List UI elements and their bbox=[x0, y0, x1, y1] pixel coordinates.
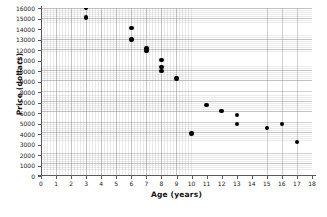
data-point bbox=[235, 113, 239, 117]
y-tick-label: 16000 bbox=[1, 5, 35, 12]
x-tick bbox=[116, 176, 117, 179]
x-tick-label: 10 bbox=[184, 180, 200, 187]
data-point bbox=[235, 122, 239, 126]
x-tick bbox=[56, 176, 57, 179]
x-tick bbox=[146, 176, 147, 179]
x-tick-label: 14 bbox=[244, 180, 260, 187]
data-point bbox=[129, 37, 133, 41]
y-tick-label: 1000 bbox=[1, 162, 35, 169]
y-tick bbox=[38, 82, 41, 83]
x-tick bbox=[86, 176, 87, 179]
x-tick-label: 4 bbox=[93, 180, 109, 187]
data-point bbox=[159, 58, 163, 62]
x-tick-label: 5 bbox=[108, 180, 124, 187]
x-tick bbox=[41, 176, 42, 179]
data-point bbox=[84, 8, 88, 10]
x-tick bbox=[252, 176, 253, 179]
x-tick-label: 6 bbox=[123, 180, 139, 187]
x-tick-label: 9 bbox=[169, 180, 185, 187]
x-tick-label: 13 bbox=[229, 180, 245, 187]
x-tick bbox=[222, 176, 223, 179]
y-tick-label: 2000 bbox=[1, 152, 35, 159]
x-tick bbox=[297, 176, 298, 179]
y-tick bbox=[38, 50, 41, 51]
data-point bbox=[204, 103, 208, 107]
x-tick-label: 3 bbox=[78, 180, 94, 187]
x-tick-label: 11 bbox=[199, 180, 215, 187]
x-tick bbox=[101, 176, 102, 179]
x-tick-label: 0 bbox=[33, 180, 49, 187]
major-gridlines bbox=[41, 8, 312, 176]
data-point bbox=[129, 26, 133, 30]
y-axis-title: Price (dollars) bbox=[15, 29, 24, 139]
data-point bbox=[280, 122, 284, 126]
y-tick bbox=[38, 124, 41, 125]
y-tick bbox=[38, 113, 41, 114]
y-tick bbox=[38, 8, 41, 9]
data-point bbox=[265, 126, 269, 130]
scatter-chart: 0123456789101112131415161718 01000200030… bbox=[0, 0, 327, 217]
data-point bbox=[159, 69, 163, 73]
data-point bbox=[174, 76, 178, 80]
minor-gridlines bbox=[41, 8, 312, 176]
x-tick bbox=[161, 176, 162, 179]
x-tick-label: 1 bbox=[48, 180, 64, 187]
x-tick bbox=[282, 176, 283, 179]
plot-area bbox=[41, 8, 312, 176]
data-point bbox=[295, 140, 299, 144]
y-tick-label: 15000 bbox=[1, 15, 35, 22]
y-tick bbox=[38, 40, 41, 41]
data-point bbox=[189, 131, 193, 135]
x-tick bbox=[177, 176, 178, 179]
y-tick bbox=[38, 103, 41, 104]
x-tick-label: 18 bbox=[304, 180, 320, 187]
y-tick bbox=[38, 19, 41, 20]
y-tick bbox=[38, 92, 41, 93]
x-tick-label: 16 bbox=[274, 180, 290, 187]
x-tick-label: 15 bbox=[259, 180, 275, 187]
y-tick bbox=[38, 155, 41, 156]
y-tick bbox=[38, 134, 41, 135]
data-point bbox=[84, 15, 88, 19]
y-tick-label: 3000 bbox=[1, 141, 35, 148]
y-tick bbox=[38, 61, 41, 62]
y-tick bbox=[38, 176, 41, 177]
y-tick-label: 0 bbox=[1, 173, 35, 180]
x-tick bbox=[131, 176, 132, 179]
x-axis-title: Age (years) bbox=[41, 190, 312, 199]
x-tick-label: 17 bbox=[289, 180, 305, 187]
x-tick-label: 2 bbox=[63, 180, 79, 187]
x-tick-label: 12 bbox=[214, 180, 230, 187]
x-tick bbox=[312, 176, 313, 179]
x-tick-label: 7 bbox=[138, 180, 154, 187]
data-point bbox=[144, 49, 148, 53]
x-tick bbox=[192, 176, 193, 179]
y-tick bbox=[38, 145, 41, 146]
x-tick bbox=[71, 176, 72, 179]
x-tick bbox=[267, 176, 268, 179]
y-tick bbox=[38, 29, 41, 30]
x-tick bbox=[237, 176, 238, 179]
y-axis-line bbox=[41, 6, 42, 176]
x-tick-label: 8 bbox=[153, 180, 169, 187]
x-tick bbox=[207, 176, 208, 179]
y-tick bbox=[38, 166, 41, 167]
data-point bbox=[219, 109, 223, 113]
y-tick bbox=[38, 71, 41, 72]
